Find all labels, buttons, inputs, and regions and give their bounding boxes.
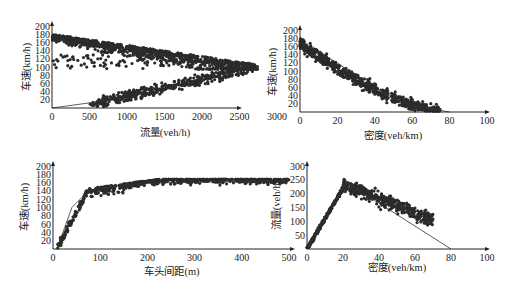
data-point [193, 81, 196, 84]
data-point [127, 182, 130, 185]
data-point [156, 58, 159, 61]
spacing-speed-y-label: 车速(km/h) [18, 182, 31, 231]
data-point [233, 61, 236, 64]
data-point [89, 45, 92, 48]
data-point [395, 209, 398, 212]
data-point [365, 198, 368, 201]
data-point [66, 59, 69, 62]
data-point [61, 238, 64, 241]
data-point [366, 85, 369, 88]
data-point [71, 56, 74, 59]
data-point [184, 83, 187, 86]
data-point [431, 223, 434, 226]
data-point [343, 179, 346, 182]
y-tick-label: 250 [290, 174, 305, 185]
density-flow-y-label: 流量(veh/h) [270, 179, 283, 230]
data-point [245, 72, 248, 75]
density-speed-x-label: 密度(veh/km) [364, 129, 423, 142]
data-point [125, 45, 128, 48]
data-point [166, 85, 169, 88]
data-point [309, 42, 312, 45]
y-tick-label: 300 [290, 161, 305, 172]
data-point [65, 54, 68, 57]
x-tick-label: 400 [234, 252, 249, 263]
density-speed-chart: 02040608010020406080100120140160180200 [283, 25, 495, 127]
data-point [114, 96, 117, 99]
data-point [189, 81, 192, 84]
data-point [78, 41, 81, 44]
data-point [70, 42, 73, 45]
data-point [394, 90, 397, 93]
data-point [162, 178, 165, 181]
x-tick-label: 20 [338, 252, 348, 263]
data-point [86, 54, 89, 57]
data-point [205, 58, 208, 61]
data-point [82, 39, 85, 42]
data-point [100, 50, 103, 53]
data-point [342, 76, 345, 79]
data-point [119, 60, 122, 63]
data-point [374, 187, 377, 190]
data-point [188, 66, 191, 69]
data-point [345, 187, 348, 190]
data-point [302, 40, 305, 43]
density-flow-chart: 02040608010050100150200250300 [290, 161, 495, 264]
data-point [83, 62, 86, 65]
data-point [112, 48, 115, 51]
data-point [178, 83, 181, 86]
data-point [251, 70, 254, 73]
data-point [196, 78, 199, 81]
x-tick-label: 1500 [155, 111, 175, 122]
x-tick-label: 0 [51, 252, 56, 263]
density-flow-x-label: 密度(veh/km) [368, 261, 427, 274]
x-tick-label: 100 [480, 252, 495, 263]
data-point [170, 58, 173, 61]
data-point [193, 178, 196, 181]
data-point [70, 65, 73, 68]
data-point [172, 87, 175, 90]
data-point [117, 96, 120, 99]
data-point [401, 211, 404, 214]
data-point [425, 212, 428, 215]
data-point [100, 102, 103, 105]
data-point [198, 68, 201, 71]
data-point [200, 178, 203, 181]
data-point [59, 244, 62, 247]
data-point [157, 50, 160, 53]
x-tick-label: 300 [187, 252, 202, 263]
data-point [112, 93, 115, 96]
data-point [218, 184, 221, 187]
data-point [202, 60, 205, 63]
data-point [223, 71, 226, 74]
y-axis-arrow-icon [305, 161, 309, 166]
x-tick-label: 40 [370, 115, 380, 126]
data-point [319, 58, 322, 61]
data-point [422, 109, 425, 112]
data-point [65, 39, 68, 42]
data-point [424, 208, 427, 211]
data-point [201, 55, 204, 58]
data-point [104, 103, 107, 106]
data-point [143, 88, 146, 91]
data-point [237, 61, 240, 64]
data-point [107, 55, 110, 58]
x-tick-label: 0 [50, 111, 55, 122]
density-speed-y-label: 车速(km/h) [266, 47, 279, 96]
flow-speed-y-label: 车速(km/h) [20, 42, 33, 91]
x-tick-label: 3000 [267, 111, 287, 122]
data-point [163, 58, 166, 61]
data-point [419, 215, 422, 218]
data-point [191, 56, 194, 59]
data-point [240, 63, 243, 66]
data-point [391, 98, 394, 101]
data-point [133, 95, 136, 98]
data-point [416, 221, 419, 224]
data-point [162, 64, 165, 67]
fit-line [58, 181, 289, 247]
data-point [186, 55, 189, 58]
data-point [249, 182, 252, 185]
data-point [77, 205, 80, 208]
data-point [106, 189, 109, 192]
data-point [409, 96, 412, 99]
data-point [311, 55, 314, 58]
